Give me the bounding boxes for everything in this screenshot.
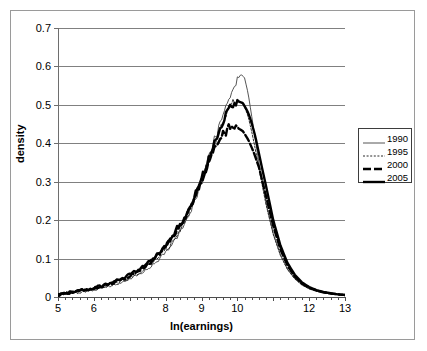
x-axis-tick-major [237, 297, 238, 301]
x-axis-tick-minor [302, 297, 303, 300]
x-axis-tick-minor [338, 297, 339, 300]
x-axis-tick-label: 9 [198, 302, 204, 314]
x-axis-tick-major [130, 297, 131, 301]
x-axis-tick-minor [80, 297, 81, 300]
x-axis-tick-minor [65, 297, 66, 300]
x-axis-tick-minor [259, 297, 260, 300]
x-axis-tick-label: 6 [91, 302, 97, 314]
x-axis-tick-minor [115, 297, 116, 300]
x-axis-tick-minor [108, 297, 109, 300]
x-axis-tick-label: 8 [163, 302, 169, 314]
y-axis-tick-label: 0.6 [36, 60, 51, 72]
x-axis-tick-minor [280, 297, 281, 300]
x-axis-tick-major [309, 297, 310, 301]
x-axis-tick-minor [123, 297, 124, 300]
density-curves [58, 28, 345, 297]
x-axis-tick-minor [216, 297, 217, 300]
x-axis-tick-minor [101, 297, 102, 300]
x-axis-tick-minor [158, 297, 159, 300]
x-axis-tick-minor [144, 297, 145, 300]
x-axis-tick-minor [209, 297, 210, 300]
x-axis-tick-minor [173, 297, 174, 300]
density-curve-2000 [58, 124, 345, 296]
x-axis-tick-minor [87, 297, 88, 300]
x-axis-tick-label: 12 [303, 302, 315, 314]
legend-item-2005: 2005 [362, 171, 409, 184]
x-axis-tick-minor [266, 297, 267, 300]
legend-item-1995: 1995 [362, 145, 409, 158]
x-axis-tick-label: 13 [339, 302, 351, 314]
x-axis-tick-minor [230, 297, 231, 300]
y-axis-title: density [14, 124, 26, 163]
x-axis-tick-minor [331, 297, 332, 300]
legend-label: 2000 [387, 159, 408, 170]
legend-label: 1995 [387, 146, 408, 157]
x-axis-tick-major [273, 297, 274, 301]
chart-figure: density 00.10.20.30.40.50.60.7 568910121… [0, 0, 427, 351]
y-axis-tick-label: 0 [45, 291, 51, 303]
x-axis-tick-minor [187, 297, 188, 300]
plot-area: 00.10.20.30.40.50.60.7 5689101213 [58, 28, 345, 297]
x-axis-tick-minor [323, 297, 324, 300]
y-axis-tick-label: 0.7 [36, 22, 51, 34]
x-axis-tick-minor [288, 297, 289, 300]
legend-item-2000: 2000 [362, 158, 409, 171]
x-axis-title: ln(earnings) [58, 320, 345, 332]
x-axis-tick-major [202, 297, 203, 301]
x-axis-tick-minor [245, 297, 246, 300]
x-axis-tick-major [58, 297, 59, 301]
x-axis-tick-major [345, 297, 346, 301]
chart-legend: 1990199520002005 [358, 128, 412, 183]
x-axis-tick-minor [137, 297, 138, 300]
x-axis-tick-minor [194, 297, 195, 300]
y-axis-tick-label: 0.4 [36, 137, 51, 149]
legend-line-swatch [362, 173, 386, 183]
density-curve-2005 [58, 100, 345, 295]
x-axis-tick-minor [316, 297, 317, 300]
x-axis-tick-minor [295, 297, 296, 300]
x-axis-tick-label: 5 [55, 302, 61, 314]
legend-line-swatch [362, 160, 386, 170]
x-axis-tick-minor [252, 297, 253, 300]
y-axis-tick-label: 0.2 [36, 214, 51, 226]
x-axis-tick-minor [72, 297, 73, 300]
x-axis-tick-major [166, 297, 167, 301]
x-axis-tick-major [94, 297, 95, 301]
legend-line-swatch [362, 134, 386, 144]
x-axis-tick-label: 10 [231, 302, 243, 314]
x-axis-tick-minor [180, 297, 181, 300]
legend-label: 1990 [387, 133, 408, 144]
y-axis-tick-label: 0.1 [36, 253, 51, 265]
legend-label: 2005 [387, 172, 408, 183]
legend-line-swatch [362, 147, 386, 157]
density-curve-1990 [58, 75, 345, 296]
density-curve-1995 [58, 99, 345, 296]
x-axis-tick-minor [223, 297, 224, 300]
legend-item-1990: 1990 [362, 132, 409, 145]
x-axis-tick-minor [151, 297, 152, 300]
y-axis-tick-label: 0.5 [36, 99, 51, 111]
y-axis-tick-label: 0.3 [36, 176, 51, 188]
